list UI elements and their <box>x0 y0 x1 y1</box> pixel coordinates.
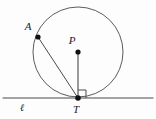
label-line-l: ℓ <box>20 102 24 113</box>
point-A <box>35 34 40 39</box>
label-point-p: P <box>68 34 76 46</box>
label-point-t: T <box>73 103 80 115</box>
geometry-figure: A P T ℓ <box>0 0 156 119</box>
geometry-canvas: A P T ℓ <box>0 0 156 119</box>
point-P <box>75 49 80 54</box>
point-T <box>75 95 81 101</box>
label-point-a: A <box>24 20 32 32</box>
